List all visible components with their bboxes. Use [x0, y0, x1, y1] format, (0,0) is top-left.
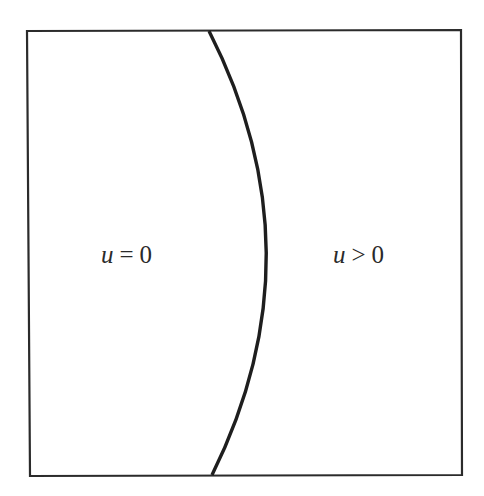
label-value: 0 — [372, 241, 385, 268]
region-label-positive: u>0 — [333, 242, 384, 267]
label-variable: u — [101, 241, 114, 268]
label-value: 0 — [140, 241, 153, 268]
label-operator: > — [346, 241, 372, 268]
label-variable: u — [333, 241, 346, 268]
region-label-zero: u=0 — [101, 242, 152, 267]
domain-box — [27, 30, 462, 476]
free-boundary-curve — [209, 31, 266, 475]
label-operator: = — [114, 241, 140, 268]
free-boundary-diagram — [0, 0, 484, 496]
